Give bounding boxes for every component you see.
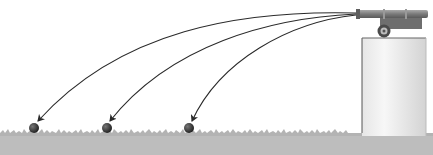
cannon-icon — [356, 9, 428, 38]
trajectories — [38, 13, 356, 121]
trajectory-slowest — [192, 15, 356, 121]
projectile-diagram — [0, 0, 433, 155]
cannonball-slowest — [184, 123, 194, 133]
cannonball-fastest — [29, 123, 39, 133]
trajectory-fastest — [38, 13, 356, 121]
cliff — [362, 38, 426, 136]
cannonball-medium — [102, 123, 112, 133]
cannonballs — [29, 123, 194, 133]
diagram-canvas — [0, 0, 433, 155]
